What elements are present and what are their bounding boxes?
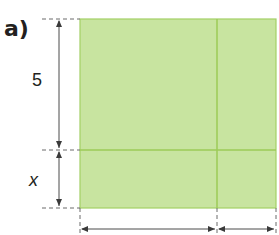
dashed-guides-horizontal: [42, 19, 80, 208]
area-model-diagram: [0, 0, 279, 235]
square: [80, 19, 276, 208]
square-fill: [80, 19, 276, 208]
dashed-guides-vertical: [80, 208, 276, 235]
